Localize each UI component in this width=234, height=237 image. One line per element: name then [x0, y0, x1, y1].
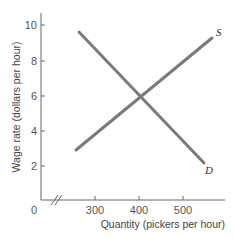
supply-curve [76, 38, 212, 150]
origin-label: 0 [31, 204, 37, 216]
x-tick-label: 300 [86, 204, 104, 216]
supply-label: S [216, 26, 222, 38]
axes [41, 13, 225, 205]
chart: 10 8 6 4 2 0 300 400 500 Quantity (picke… [0, 0, 234, 237]
y-tick-label: 8 [31, 55, 37, 67]
y-tick-label: 6 [31, 90, 37, 102]
y-axis-title: Wage rate (dollars per hour) [10, 42, 22, 173]
x-axis-title: Quantity (pickers per hour) [101, 218, 225, 230]
y-tick-label: 10 [25, 19, 37, 31]
demand-curve [79, 32, 204, 163]
demand-label: D [204, 164, 213, 176]
y-tick-label: 2 [31, 160, 37, 172]
x-tick-label: 400 [130, 204, 148, 216]
x-tick-label: 500 [174, 204, 192, 216]
y-tick-label: 4 [31, 125, 37, 137]
y-ticks: 10 8 6 4 2 [25, 19, 45, 172]
